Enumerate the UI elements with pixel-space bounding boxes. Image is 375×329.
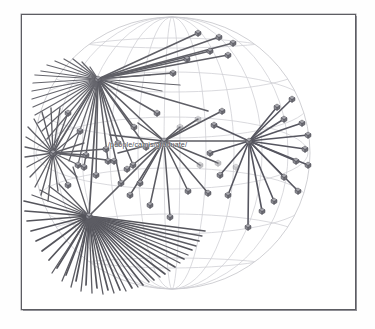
node-leaf[interactable] [103,146,109,152]
node-leaf[interactable] [271,198,277,204]
node-leaf[interactable] [170,70,176,76]
node-leaf[interactable] [65,182,71,188]
node-leaf[interactable] [195,30,201,36]
image-frame: /people/camis/graduate/ [21,14,356,310]
node-leaf[interactable] [299,120,305,126]
node-leaf[interactable] [305,132,311,138]
node-leaf-faint[interactable] [195,116,201,122]
node-leaf[interactable] [259,208,265,214]
graph-canvas[interactable] [22,15,355,309]
node-leaf[interactable] [211,122,217,128]
viewer-root: /people/camis/graduate/ [0,0,375,329]
node-leaf[interactable] [305,162,311,168]
node-leaf[interactable] [115,140,121,146]
node-leaf[interactable] [147,202,153,208]
node-leaf[interactable] [167,214,173,220]
node-leaf[interactable] [225,52,231,58]
node-leaf[interactable] [245,224,251,230]
graph-viewport[interactable]: /people/camis/graduate/ [22,15,355,309]
node-leaf[interactable] [81,164,87,170]
node-leaf[interactable] [137,180,143,186]
node-leaf[interactable] [302,146,308,152]
node-leaf[interactable] [225,192,231,198]
node-leaf[interactable] [219,108,225,114]
node-leaf-faint[interactable] [215,160,221,166]
node-leaf[interactable] [207,150,213,156]
node-leaf[interactable] [281,116,287,122]
